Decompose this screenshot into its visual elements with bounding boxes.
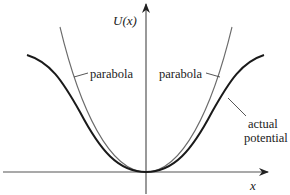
parabola-left-leader bbox=[74, 73, 88, 77]
actual-potential-leader bbox=[228, 98, 246, 116]
y-axis-label: U(x) bbox=[113, 13, 137, 28]
actual-potential-label-line1: actual bbox=[248, 117, 278, 131]
parabola-right-leader bbox=[206, 73, 220, 77]
parabola-right-label: parabola bbox=[159, 67, 202, 81]
parabola-left-label: parabola bbox=[90, 67, 133, 81]
actual-potential-label-line2: potential bbox=[244, 131, 288, 145]
potential-diagram: U(x) x parabola parabola actual potentia… bbox=[0, 0, 290, 195]
x-axis-label: x bbox=[249, 178, 256, 193]
